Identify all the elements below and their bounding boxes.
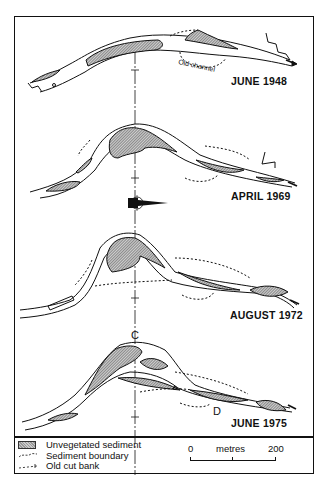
panel-label-june-1948: JUNE 1948: [231, 75, 287, 87]
scale-mid-tick: [232, 457, 233, 460]
scale-bar-line: [190, 457, 276, 461]
dashed-line-icon: [18, 451, 38, 460]
panel-august-1972: [20, 233, 299, 318]
scale-start: 0: [188, 443, 193, 454]
legend-item-old-cut-bank: Old cut bank: [18, 461, 141, 472]
panel-label-june-1975: JUNE 1975: [231, 417, 287, 429]
hatched-swatch-icon: [18, 441, 36, 449]
panel-label-april-1969: APRIL 1969: [231, 190, 291, 202]
panel-label-august-1972: AUGUST 1972: [230, 309, 303, 321]
scale-end: 200: [268, 443, 284, 454]
legend: Unvegetated sediment Sediment boundary O…: [18, 440, 141, 472]
scale-unit: metres: [216, 443, 245, 454]
legend-item-unvegetated-sediment: Unvegetated sediment: [18, 440, 141, 451]
scale-bar: 0 metres 200: [188, 443, 278, 473]
legend-label: Old cut bank: [46, 461, 99, 472]
marker-d: D: [213, 405, 221, 417]
north-arrow-icon: [128, 195, 168, 211]
cross-dashed-line-icon: [18, 462, 38, 471]
legend-label: Unvegetated sediment: [46, 440, 141, 451]
panel-april-1969: [30, 124, 297, 198]
marker-c: C: [131, 329, 139, 341]
